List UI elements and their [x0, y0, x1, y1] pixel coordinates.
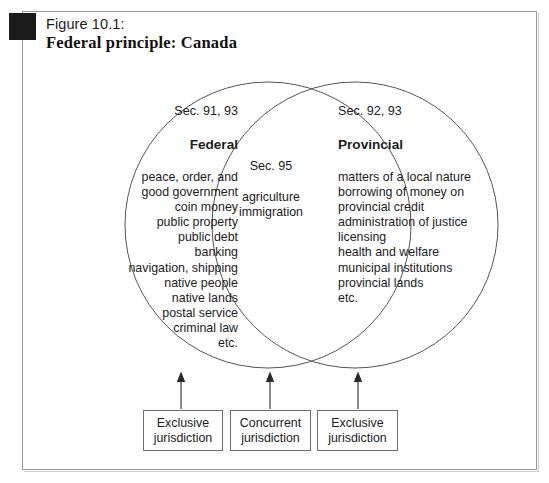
arrow-right: [355, 373, 362, 409]
concurrent-text-block: Sec. 95 agriculture immigration: [233, 159, 309, 220]
provincial-text-block: Sec. 92, 93 Provincial matters of a loca…: [338, 104, 518, 306]
provincial-section-label: Sec. 92, 93: [338, 104, 518, 119]
federal-heading: Federal: [70, 137, 238, 153]
concurrent-item-list: agriculture immigration: [233, 190, 309, 220]
federal-item-list: peace, order, and good government coin m…: [70, 170, 238, 351]
federal-text-block: Sec. 91, 93 Federal peace, order, and go…: [70, 104, 238, 351]
concurrent-section-label: Sec. 95: [233, 159, 309, 174]
arrow-left: [178, 373, 185, 409]
legend-box-exclusive-federal: Exclusive jurisdiction: [143, 410, 223, 451]
arrow-center: [267, 373, 274, 409]
figure-container: Figure 10.1: Federal principle: Canada S…: [0, 0, 549, 483]
legend-box-concurrent: Concurrent jurisdiction: [230, 410, 311, 451]
provincial-item-list: matters of a local nature borrowing of m…: [338, 170, 518, 306]
provincial-heading: Provincial: [338, 137, 518, 153]
federal-section-label: Sec. 91, 93: [70, 104, 238, 119]
legend-box-exclusive-provincial: Exclusive jurisdiction: [317, 410, 398, 451]
